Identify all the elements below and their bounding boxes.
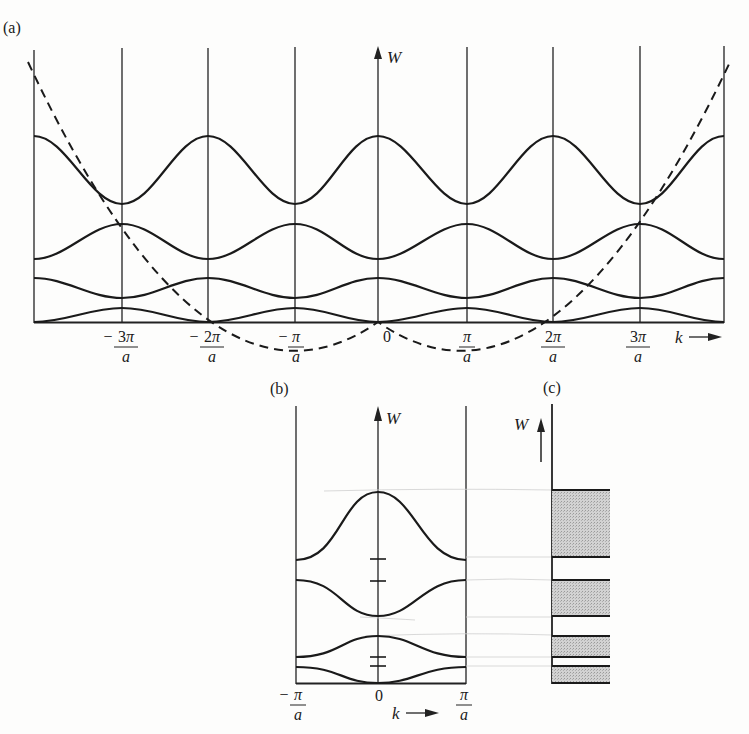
- panel-c-label: (c): [543, 379, 561, 397]
- band-1-b: [296, 667, 466, 683]
- band-4-b: [296, 492, 466, 560]
- w-axis-c: W: [514, 415, 545, 462]
- energy-bands-a: [34, 136, 724, 322]
- arrow-up-icon: [537, 418, 545, 432]
- svg-text:−: −: [103, 328, 112, 345]
- tick-pi-b: π a: [456, 686, 472, 723]
- band-2-c: [552, 636, 610, 657]
- svg-text:W: W: [514, 415, 530, 434]
- svg-text:a: a: [549, 348, 557, 365]
- tick-zero-a: 0: [383, 328, 391, 345]
- arrow-up-icon: [374, 406, 382, 421]
- tick-pi-a: π a: [459, 328, 475, 365]
- tick-minus-pi-a: − π a: [278, 328, 304, 365]
- svg-text:3π: 3π: [118, 328, 135, 345]
- band-3-b: [296, 580, 466, 616]
- band-2-a: [34, 278, 724, 298]
- panel-a: (a) W: [3, 19, 730, 365]
- svg-text:a: a: [634, 348, 642, 365]
- panel-c: (c) W: [514, 379, 610, 684]
- k-axis-label-a: k: [675, 328, 722, 347]
- svg-text:a: a: [460, 706, 468, 723]
- svg-text:−: −: [189, 328, 198, 345]
- tick-minus-3pi-a: − 3π a: [103, 328, 138, 365]
- svg-text:a: a: [122, 348, 130, 365]
- tick-minus-2pi-a: − 2π a: [189, 328, 224, 365]
- svg-text:a: a: [463, 348, 471, 365]
- band-1-a: [34, 308, 724, 322]
- arrow-right-icon: [425, 709, 439, 717]
- band-4-a: [34, 136, 724, 204]
- band-2-b: [296, 636, 466, 657]
- svg-text:π: π: [294, 686, 303, 703]
- arrow-right-icon: [708, 333, 722, 341]
- allowed-bands-c: [552, 490, 610, 683]
- svg-text:2π: 2π: [204, 328, 221, 345]
- svg-text:2π: 2π: [545, 328, 562, 345]
- tick-3pi-a: 3π a: [626, 328, 650, 365]
- svg-text:π: π: [463, 328, 472, 345]
- w-axis-label: W: [387, 48, 403, 67]
- svg-text:a: a: [208, 348, 216, 365]
- tick-2pi-a: 2π a: [541, 328, 565, 365]
- band-3-a: [34, 224, 724, 259]
- svg-text:−: −: [278, 328, 287, 345]
- svg-text:π: π: [292, 328, 301, 345]
- k-tick-labels-a: − 3π a − 2π a − π a 0 π a: [103, 328, 650, 365]
- panel-a-label: (a): [3, 19, 21, 37]
- energy-bands-b: [296, 492, 466, 683]
- panel-b-label: (b): [270, 380, 289, 398]
- svg-text:−: −: [279, 686, 288, 703]
- svg-text:3π: 3π: [630, 328, 647, 345]
- arrow-up-icon: [374, 46, 382, 59]
- band-1-c: [552, 666, 610, 683]
- band-structure-figure: (a) W: [0, 0, 749, 734]
- svg-text:k: k: [392, 704, 400, 723]
- free-electron-parabola: [28, 62, 730, 351]
- zone-boundary-lines: [34, 46, 724, 323]
- svg-text:π: π: [460, 686, 469, 703]
- k-axis-label-b: k: [392, 704, 439, 723]
- tick-minus-pi-b: − π a: [279, 686, 306, 723]
- svg-text:W: W: [386, 409, 402, 428]
- band-4-c: [552, 490, 610, 557]
- band-3-c: [552, 580, 610, 616]
- svg-text:k: k: [675, 328, 683, 347]
- panel-b: (b) W: [270, 380, 552, 723]
- k-tick-labels-b: − π a 0 π a: [279, 686, 472, 723]
- w-axis-b: W: [374, 406, 402, 684]
- svg-text:a: a: [294, 706, 302, 723]
- tick-zero-b: 0: [375, 687, 383, 704]
- svg-text:a: a: [292, 348, 300, 365]
